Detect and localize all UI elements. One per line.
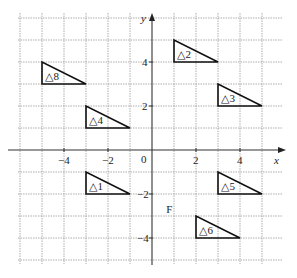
triangle-label: △6 — [199, 224, 213, 236]
x-tick-label: 2 — [193, 154, 199, 166]
triangle-label: △3 — [221, 92, 235, 104]
triangle-label: △5 — [221, 180, 235, 192]
axes: x y 0 — [8, 12, 286, 265]
triangle-label: △4 — [89, 114, 103, 126]
y-axis-arrow-icon — [149, 13, 155, 21]
x-axis-arrow-icon — [278, 147, 286, 153]
grid-lines — [18, 13, 282, 264]
origin-label: 0 — [141, 153, 147, 165]
y-tick-label: −4 — [137, 232, 149, 244]
point-labels: F — [166, 203, 172, 215]
x-tick-label: −2 — [102, 154, 114, 166]
y-axis-label: y — [140, 12, 146, 24]
triangle-label: △8 — [45, 70, 59, 82]
triangle-3: △3 — [218, 84, 262, 106]
point-label-f: F — [166, 203, 172, 215]
x-axis-label: x — [273, 154, 279, 166]
y-tick-label: −2 — [137, 188, 149, 200]
y-tick-label: 2 — [142, 100, 148, 112]
x-tick-label: −4 — [58, 154, 70, 166]
x-tick-label: 4 — [237, 154, 243, 166]
y-tick-label: 4 — [142, 56, 148, 68]
triangle-label: △1 — [89, 180, 103, 192]
triangle-label: △2 — [177, 48, 191, 60]
coordinate-grid-diagram: x y 0 −4−22442−2−4 △1△2△3△4△5△6△8 F — [0, 0, 297, 278]
